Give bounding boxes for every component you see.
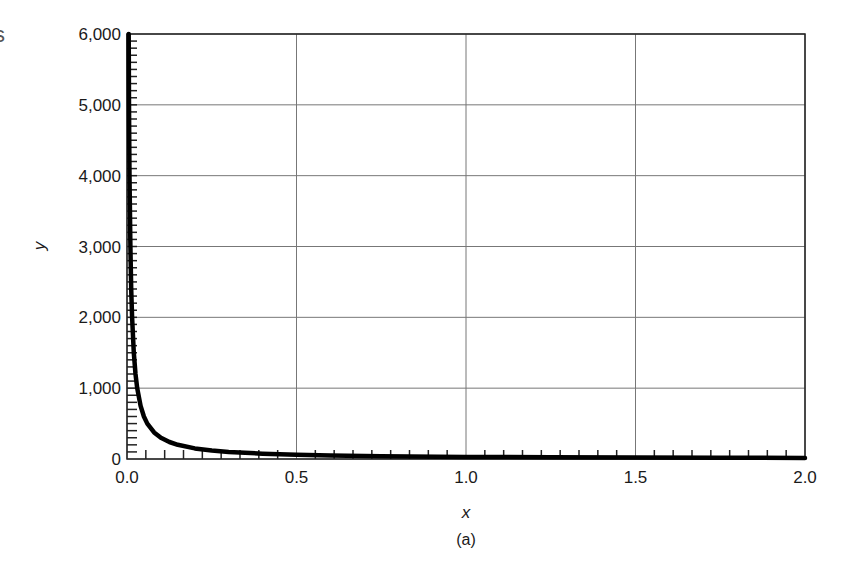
minor-ticks xyxy=(127,41,786,459)
y-tick-label: 3,000 xyxy=(78,238,121,257)
x-tick-label: 0.0 xyxy=(115,468,139,487)
data-curve xyxy=(129,34,805,458)
y-tick-labels: 01,0002,0003,0004,0005,0006,000 xyxy=(78,25,121,469)
y-tick-label: 4,000 xyxy=(78,167,121,186)
y-tick-label: 1,000 xyxy=(78,379,121,398)
y-tick-label: 2,000 xyxy=(78,308,121,327)
y-tick-label: 5,000 xyxy=(78,96,121,115)
figure-caption: (a) xyxy=(456,531,476,548)
x-tick-label: 0.5 xyxy=(285,468,309,487)
y-tick-label: 6,000 xyxy=(78,25,121,44)
x-tick-label: 2.0 xyxy=(793,468,817,487)
chart: 0.00.51.01.52.0 01,0002,0003,0004,0005,0… xyxy=(0,0,864,582)
x-tick-label: 1.5 xyxy=(624,468,648,487)
y-axis-title: y xyxy=(30,240,49,251)
gridlines xyxy=(127,34,805,459)
x-tick-labels: 0.00.51.01.52.0 xyxy=(115,468,817,487)
x-tick-label: 1.0 xyxy=(454,468,478,487)
x-axis-title: x xyxy=(461,503,471,522)
y-tick-label: 0 xyxy=(112,450,121,469)
